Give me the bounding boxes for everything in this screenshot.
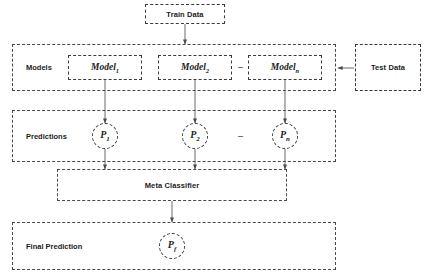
- final-prediction-circle[interactable]: Pf: [159, 233, 185, 259]
- prediction-label-n: Pn: [280, 129, 290, 143]
- meta-classifier-box[interactable]: Meta Classifier: [57, 169, 287, 201]
- prediction-label-2: P2: [190, 129, 200, 143]
- model-box-n[interactable]: Modeln: [248, 55, 322, 80]
- predictions-row-label: Predictions: [26, 110, 67, 162]
- prediction-label-1: P1: [100, 129, 110, 143]
- model-label-2: Model2: [181, 62, 209, 74]
- train-data-box[interactable]: Train Data: [145, 4, 225, 24]
- models-row-label: Models: [26, 44, 52, 91]
- model-box-2[interactable]: Model2: [158, 55, 232, 80]
- prediction-circle-2[interactable]: P2: [182, 123, 208, 149]
- final-prediction-label: Pf: [168, 239, 176, 253]
- model-label-1: Model1: [91, 62, 119, 74]
- predictions-dash-separator: –: [238, 131, 243, 141]
- train-data-label: Train Data: [166, 10, 203, 19]
- meta-classifier-label: Meta Classifier: [145, 181, 199, 190]
- model-box-1[interactable]: Model1: [68, 55, 142, 80]
- models-dash-separator: –: [238, 62, 243, 72]
- model-label-n: Modeln: [271, 62, 299, 74]
- test-data-box[interactable]: Test Data: [355, 44, 421, 91]
- stacking-ensemble-diagram: Train Data Models Model1 Model2 – Modeln…: [0, 0, 430, 278]
- final-prediction-row-label: Final Prediction: [26, 222, 82, 270]
- prediction-circle-n[interactable]: Pn: [272, 123, 298, 149]
- test-data-label: Test Data: [371, 63, 405, 72]
- prediction-circle-1[interactable]: P1: [92, 123, 118, 149]
